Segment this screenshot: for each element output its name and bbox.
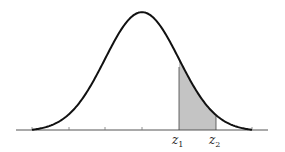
bell-curve — [32, 12, 252, 130]
z1-label: z1 — [172, 134, 183, 149]
z2-label-sub: 2 — [215, 140, 220, 149]
z2-label: z2 — [209, 134, 220, 149]
z1-label-sub: 1 — [178, 140, 183, 149]
normal-curve-diagram — [0, 0, 285, 152]
